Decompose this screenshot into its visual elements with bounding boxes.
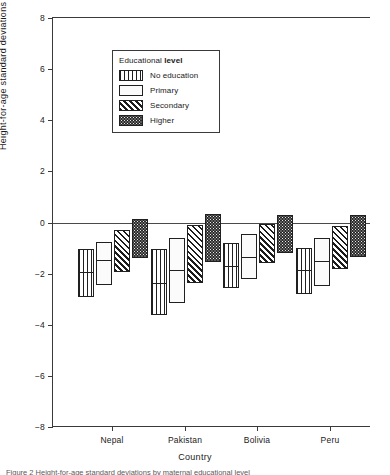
figure-caption: Figure 2 Height-for-age standard deviati… — [6, 468, 384, 475]
legend-item-label: Primary — [150, 86, 178, 95]
x-tick-label: Pakistan — [168, 435, 202, 445]
bar-median-line — [242, 257, 256, 258]
bar-median-line — [79, 272, 93, 273]
y-tick-label: 2 — [40, 166, 45, 176]
bar-nepal-secondary — [114, 230, 130, 272]
bar-peru-no-education — [296, 248, 312, 294]
bar-peru-primary — [314, 238, 330, 287]
bar-peru-higher — [350, 215, 366, 257]
x-tick-mark — [257, 426, 258, 431]
x-tick-label: Nepal — [100, 435, 123, 445]
y-tick-mark — [48, 120, 53, 121]
legend-item-secondary: Secondary — [119, 99, 213, 111]
y-tick-label: −8 — [35, 422, 45, 432]
legend: Educational level No educationPrimarySec… — [112, 50, 220, 133]
bar-pakistan-secondary — [187, 225, 203, 283]
y-tick-label: 6 — [40, 64, 45, 74]
y-tick-label: 8 — [40, 13, 45, 23]
bar-nepal-higher — [132, 219, 148, 259]
x-tick-mark — [330, 426, 331, 431]
bar-median-line — [170, 270, 184, 271]
y-tick-mark — [48, 223, 53, 224]
y-tick-label: −4 — [35, 320, 45, 330]
figure-container: Height-for-age standard deviations 86420… — [0, 0, 390, 475]
bar-bolivia-primary — [241, 234, 257, 279]
legend-swatch-primary — [119, 85, 143, 96]
bar-nepal-no-education — [78, 249, 94, 296]
bar-bolivia-no-education — [223, 243, 239, 288]
y-tick-mark — [48, 274, 53, 275]
legend-item-label: Higher — [150, 116, 174, 125]
bar-peru-secondary — [332, 226, 348, 268]
legend-item-primary: Primary — [119, 84, 213, 96]
legend-title-prefix: Educational — [119, 56, 164, 65]
bar-median-line — [224, 266, 238, 267]
y-tick-mark — [48, 69, 53, 70]
x-tick-mark — [112, 426, 113, 431]
bar-median-line — [152, 283, 166, 284]
y-tick-mark — [48, 18, 53, 19]
bar-bolivia-higher — [277, 215, 293, 253]
y-tick-mark — [48, 427, 53, 428]
x-tick-label: Peru — [321, 435, 340, 445]
y-axis-title: Height-for-age standard deviations — [0, 2, 8, 150]
legend-item-no-education: No education — [119, 69, 213, 81]
y-tick-label: 0 — [40, 218, 45, 228]
x-axis-title: Country — [0, 452, 390, 462]
legend-swatch-higher — [119, 115, 143, 126]
bar-pakistan-primary — [169, 238, 185, 303]
legend-swatch-no-education — [119, 70, 143, 81]
y-tick-label: −6 — [35, 371, 45, 381]
legend-rows: No educationPrimarySecondaryHigher — [119, 69, 213, 126]
bar-bolivia-secondary — [259, 224, 275, 264]
legend-title-emphasis: level — [164, 56, 182, 65]
legend-item-higher: Higher — [119, 114, 213, 126]
bar-median-line — [315, 261, 329, 262]
y-tick-mark — [48, 376, 53, 377]
bar-median-line — [97, 260, 111, 261]
y-tick-label: −2 — [35, 269, 45, 279]
bar-median-line — [297, 270, 311, 271]
x-tick-mark — [185, 426, 186, 431]
legend-item-label: No education — [150, 71, 198, 80]
legend-item-label: Secondary — [150, 101, 189, 110]
y-tick-label: 4 — [40, 115, 45, 125]
legend-title: Educational level — [119, 56, 213, 65]
y-tick-mark — [48, 325, 53, 326]
bar-pakistan-higher — [205, 214, 221, 263]
y-tick-mark — [48, 171, 53, 172]
legend-swatch-secondary — [119, 100, 143, 111]
bar-pakistan-no-education — [151, 249, 167, 314]
x-tick-label: Bolivia — [244, 435, 270, 445]
x-axis-line — [52, 426, 370, 427]
bar-nepal-primary — [96, 242, 112, 285]
